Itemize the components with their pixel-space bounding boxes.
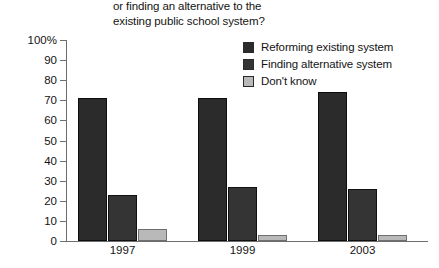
y-tick-mark bbox=[60, 221, 66, 222]
chart-title-line-2: existing public school system? bbox=[113, 14, 373, 29]
y-tick-label: 40 bbox=[44, 155, 57, 167]
bar bbox=[348, 189, 377, 241]
chart-title: or finding an alternative to the existin… bbox=[113, 0, 373, 29]
y-tick-label: 20 bbox=[44, 195, 57, 207]
y-tick-label: 100% bbox=[28, 34, 57, 46]
bar bbox=[378, 235, 407, 241]
bar-chart: or finding an alternative to the existin… bbox=[0, 0, 439, 268]
y-tick-mark bbox=[60, 241, 66, 242]
bar bbox=[228, 187, 257, 241]
y-tick-label: 80 bbox=[44, 74, 57, 86]
bar bbox=[318, 92, 347, 241]
y-tick-mark bbox=[60, 141, 66, 142]
plot-area: 100%9080706050403020100 199719992003 bbox=[66, 40, 428, 242]
x-tick-label: 1997 bbox=[78, 244, 167, 256]
x-tick-label: 2003 bbox=[318, 244, 407, 256]
y-tick-label: 0 bbox=[51, 235, 57, 247]
y-tick-label: 10 bbox=[44, 215, 57, 227]
bar bbox=[138, 229, 167, 241]
y-tick-label: 90 bbox=[44, 54, 57, 66]
y-tick-mark bbox=[60, 60, 66, 61]
y-tick-mark bbox=[60, 100, 66, 101]
y-tick-mark bbox=[60, 201, 66, 202]
bar bbox=[198, 98, 227, 241]
x-tick-label: 1999 bbox=[198, 244, 287, 256]
y-axis-line bbox=[66, 40, 67, 242]
y-tick-mark bbox=[60, 80, 66, 81]
y-tick-mark bbox=[60, 181, 66, 182]
chart-title-line-1: or finding an alternative to the bbox=[113, 0, 373, 14]
y-tick-mark bbox=[60, 40, 66, 41]
y-tick-label: 60 bbox=[44, 114, 57, 126]
y-tick-mark bbox=[60, 161, 66, 162]
bar bbox=[78, 98, 107, 241]
x-axis-line bbox=[61, 241, 428, 242]
y-tick-label: 70 bbox=[44, 94, 57, 106]
bar bbox=[108, 195, 137, 241]
bar bbox=[258, 235, 287, 241]
y-tick-label: 50 bbox=[44, 135, 57, 147]
y-tick-mark bbox=[60, 120, 66, 121]
y-tick-label: 30 bbox=[44, 175, 57, 187]
